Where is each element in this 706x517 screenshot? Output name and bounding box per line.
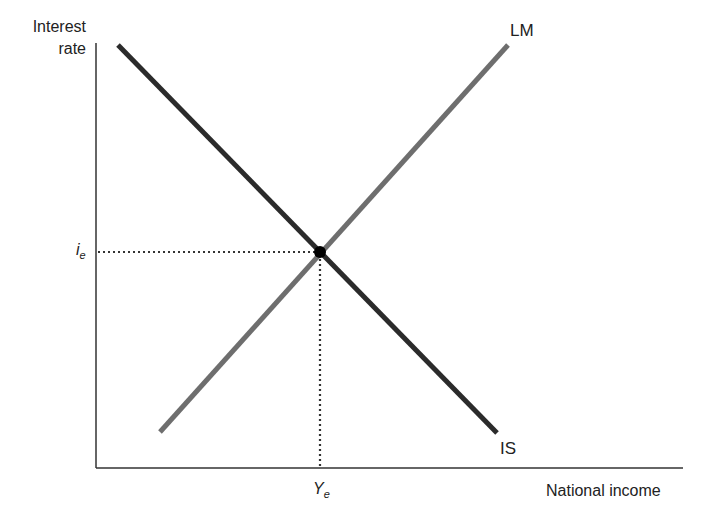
ie-sub: e bbox=[80, 249, 86, 261]
x-axis-label: National income bbox=[546, 483, 661, 499]
ie-label: ie bbox=[76, 242, 86, 258]
is-curve bbox=[118, 45, 497, 433]
ye-label: Ye bbox=[313, 481, 330, 497]
is-lm-diagram bbox=[0, 0, 706, 517]
lm-curve bbox=[160, 45, 508, 432]
ye-main: Y bbox=[313, 480, 324, 497]
y-axis-label-line2: rate bbox=[10, 38, 86, 60]
is-label: IS bbox=[500, 440, 516, 457]
ye-sub: e bbox=[324, 488, 330, 500]
y-axis-label-line1: Interest bbox=[10, 16, 86, 38]
equilibrium-point bbox=[314, 246, 326, 258]
lm-label: LM bbox=[510, 22, 534, 39]
y-axis-label: Interest rate bbox=[10, 16, 86, 60]
